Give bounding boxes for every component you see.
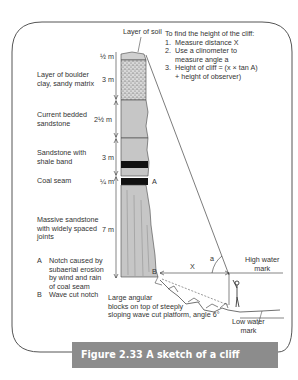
dimension-soil: ½ m (92, 52, 114, 61)
sight-line (146, 55, 229, 275)
top-label-soil: Layer of soil (123, 28, 162, 37)
layer-label-massive-sandstone: Massive sandstone with widely spaced joi… (37, 216, 99, 242)
layer-boulder-clay (121, 60, 146, 100)
layer-label-boulder-clay: Layer of boulder clay, sandy matrix (37, 71, 94, 88)
angle-a-label: a (210, 255, 214, 264)
layer-current-bedded-sandstone (121, 100, 148, 138)
dimension-current-bedded: 2½ m (90, 115, 112, 124)
high-water-label: High water mark (245, 256, 279, 273)
layer-label-coal-seam: Coal seam (37, 177, 71, 186)
dimension-sandstone-shale: 3 m (92, 153, 114, 162)
layer-label-sandstone-shale: Sandstone with shale band (37, 149, 86, 166)
blocks-annotation: Large angular blocks on top of steeply s… (108, 294, 220, 320)
notes-legend: A Notch caused by subaerial erosion by w… (37, 257, 104, 300)
note-item: A Notch caused by subaerial erosion by w… (37, 257, 104, 291)
dimension-line (114, 52, 118, 278)
layer-label-current-bedded: Current bedded sandstone (37, 111, 87, 128)
point-a-label: A (152, 178, 157, 187)
soil-pointer (138, 37, 141, 52)
instructions-block: To find the height of the cliff: 1. Meas… (165, 30, 258, 82)
distance-x-label: X (190, 263, 195, 272)
observer-figure (233, 280, 239, 307)
shale-band (121, 161, 148, 168)
instruction-step: 2. Use a clinometer to measure angle a (165, 47, 258, 64)
dimension-boulder-clay: 3 m (92, 75, 114, 84)
layer-sandstone-shale (121, 138, 149, 176)
point-b-label: B (152, 268, 157, 277)
note-item: B Wave cut notch (37, 291, 104, 300)
figure-caption: Figure 2.33 A sketch of a cliff profile (72, 342, 278, 368)
dimension-massive-sandstone: 7 m (92, 225, 114, 234)
instruction-step: 3. Height of cliff = (x × tan A) + heigh… (165, 64, 258, 81)
cliff-column (121, 52, 162, 285)
layer-massive-sandstone (121, 185, 158, 277)
low-water-label: Low water mark (232, 318, 265, 335)
layer-coal-seam (121, 178, 148, 185)
figure-frame-left (12, 52, 72, 352)
layer-soil (121, 52, 146, 60)
dimension-coal-seam: ¼ m (92, 177, 114, 186)
